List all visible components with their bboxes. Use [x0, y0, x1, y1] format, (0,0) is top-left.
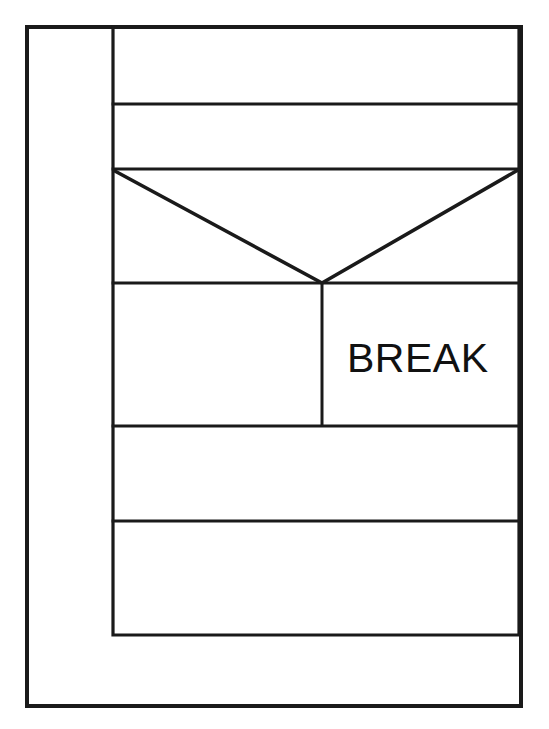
diagram-page: BREAK: [0, 0, 549, 729]
line-diagram: BREAK: [0, 0, 549, 729]
v-fold-lines: [113, 170, 518, 283]
inner-panel-rect: [113, 27, 519, 635]
break-label: BREAK: [347, 335, 489, 381]
